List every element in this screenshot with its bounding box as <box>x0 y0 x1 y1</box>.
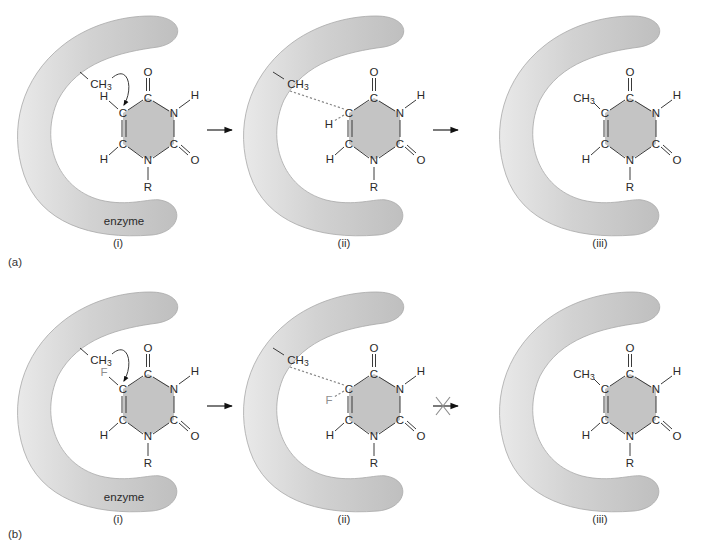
atom-o4: O <box>626 66 635 78</box>
atom-c5: C <box>345 383 353 395</box>
atom-substituent-c5: H <box>325 118 333 130</box>
atom-r: R <box>370 457 378 469</box>
atom-n3: N <box>396 107 404 119</box>
atom-h6: H <box>582 429 590 441</box>
atom-c2: C <box>652 138 660 150</box>
row-b: enzymeCNCNCCOOHRHFCH3(i)CNCNCCOOHRHCH3F(… <box>8 292 682 540</box>
pyrimidine-ring <box>349 98 400 160</box>
atom-n3: N <box>652 383 660 395</box>
enzyme-methylation-diagram: enzymeCNCNCCOOHRHHCH3(i)CNCNCCOOHRHCH3H(… <box>0 0 705 549</box>
enzyme-methyl-group: CH3 <box>287 354 309 368</box>
atom-n1: N <box>144 154 152 166</box>
atom-c6: C <box>345 414 353 426</box>
panel-1: enzymeCNCNCCOOHRHHCH3(i) <box>18 16 200 249</box>
atom-o4: O <box>144 342 153 354</box>
atom-c6: C <box>601 138 609 150</box>
curved-arrow-icon <box>112 74 129 105</box>
atom-h6: H <box>582 153 590 165</box>
atom-h3: H <box>191 89 199 101</box>
panel-caption: (ii) <box>338 513 351 525</box>
row-label: (b) <box>8 528 22 540</box>
panel-2: CNCNCCOOHRHCH3H(ii) <box>244 16 426 249</box>
panel-1: enzymeCNCNCCOOHRHFCH3(i) <box>18 292 200 525</box>
atom-c2: C <box>652 414 660 426</box>
atom-c4: C <box>144 368 152 380</box>
atom-h6: H <box>326 153 334 165</box>
atom-n3: N <box>652 107 660 119</box>
panel-3: CNCNCCOOHRHCH3(iii) <box>500 16 682 249</box>
panel-3: CNCNCCOOHRHCH3(iii) <box>500 292 682 525</box>
atom-c6: C <box>119 414 127 426</box>
atom-h3: H <box>417 365 425 377</box>
atom-h3: H <box>673 89 681 101</box>
atom-h3: H <box>417 89 425 101</box>
panel-2: CNCNCCOOHRHCH3F(ii) <box>244 292 426 525</box>
atom-c5: C <box>119 107 127 119</box>
atom-r: R <box>626 181 634 193</box>
atom-o2: O <box>191 430 200 442</box>
atom-c4: C <box>370 368 378 380</box>
atom-n3: N <box>396 383 404 395</box>
partial-bond <box>290 367 344 385</box>
panel-caption: (i) <box>113 513 123 525</box>
atom-c4: C <box>626 92 634 104</box>
pyrimidine-ring <box>349 374 400 436</box>
atom-o2: O <box>191 154 200 166</box>
atom-c5: C <box>345 107 353 119</box>
enzyme-methyl-group: CH3 <box>90 354 112 368</box>
atom-c5: C <box>601 107 609 119</box>
atom-c2: C <box>170 414 178 426</box>
atom-n1: N <box>370 154 378 166</box>
panel-caption: (iii) <box>592 237 607 249</box>
atom-c2: C <box>170 138 178 150</box>
atom-o2: O <box>673 430 682 442</box>
atom-c5: C <box>601 383 609 395</box>
panel-caption: (iii) <box>592 513 607 525</box>
atom-n1: N <box>626 154 634 166</box>
atom-o4: O <box>370 66 379 78</box>
atom-c6: C <box>601 414 609 426</box>
atom-h6: H <box>326 429 334 441</box>
row-label: (a) <box>8 256 22 268</box>
blocked-reaction-arrow-icon <box>433 397 458 415</box>
pyrimidine-ring <box>123 374 174 436</box>
atom-n3: N <box>170 383 178 395</box>
atom-h3: H <box>673 365 681 377</box>
atom-c4: C <box>144 92 152 104</box>
atom-n1: N <box>144 430 152 442</box>
atom-o4: O <box>626 342 635 354</box>
ring-methyl-group: CH3 <box>573 368 595 382</box>
atom-h6: H <box>100 429 108 441</box>
pyrimidine-ring <box>605 374 656 436</box>
panel-caption: (i) <box>113 237 123 249</box>
atom-r: R <box>626 457 634 469</box>
curved-arrow-icon <box>112 350 129 381</box>
atom-h6: H <box>100 153 108 165</box>
enzyme-label: enzyme <box>104 215 144 227</box>
atom-o2: O <box>673 154 682 166</box>
atom-o4: O <box>370 342 379 354</box>
enzyme-label: enzyme <box>104 491 144 503</box>
atom-c2: C <box>396 138 404 150</box>
atom-r: R <box>144 457 152 469</box>
atom-r: R <box>370 181 378 193</box>
atom-h3: H <box>191 365 199 377</box>
atom-n1: N <box>626 430 634 442</box>
atom-o2: O <box>417 154 426 166</box>
atom-o2: O <box>417 430 426 442</box>
atom-substituent-c5: F <box>325 394 332 406</box>
partial-bond <box>290 91 344 109</box>
pyrimidine-ring <box>605 98 656 160</box>
atom-c5: C <box>119 383 127 395</box>
ring-methyl-group: CH3 <box>573 92 595 106</box>
atom-c6: C <box>119 138 127 150</box>
atom-c4: C <box>370 92 378 104</box>
atom-r: R <box>144 181 152 193</box>
atom-o4: O <box>144 66 153 78</box>
enzyme-methyl-group: CH3 <box>287 78 309 92</box>
enzyme-methyl-group: CH3 <box>90 78 112 92</box>
panel-caption: (ii) <box>338 237 351 249</box>
atom-c4: C <box>626 368 634 380</box>
atom-c6: C <box>345 138 353 150</box>
atom-n3: N <box>170 107 178 119</box>
